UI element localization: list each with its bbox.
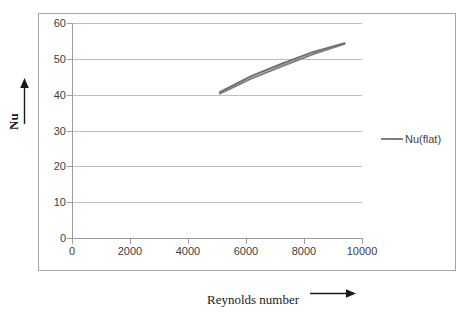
y-tick-label-40: 40 [38,90,66,101]
y-tick-label-30: 30 [38,126,66,137]
x-tick-mark-8000 [304,239,305,244]
chart-page: 60 50 40 30 20 10 0 0 2000 4000 6000 800… [0,0,476,319]
x-tick-label-2000: 2000 [100,245,160,257]
x-tick-mark-6000 [246,239,247,244]
x-tick-mark-10000 [362,239,363,244]
x-tick-mark-2000 [130,239,131,244]
legend: Nu(flat) [381,133,441,145]
x-tick-mark-0 [72,239,73,244]
x-tick-label-8000: 8000 [274,245,334,257]
legend-swatch-nu-flat [381,138,403,140]
legend-label-nu-flat: Nu(flat) [405,133,441,145]
y-tick-label-20: 20 [38,161,66,172]
x-tick-mark-4000 [188,239,189,244]
y-tick-label-0: 0 [38,233,66,244]
y-tick-label-10: 10 [38,197,66,208]
x-axis-title: Reynolds number [207,292,299,308]
right-arrow-icon [310,288,356,299]
series-line-nu-flat [220,44,345,94]
y-tick-label-60: 60 [38,18,66,29]
x-tick-label-6000: 6000 [216,245,276,257]
x-tick-label-10000: 10000 [332,245,392,257]
series-layer [72,23,362,239]
y-tick-label-50: 50 [38,54,66,65]
x-tick-label-4000: 4000 [158,245,218,257]
y-axis-title: Nu [6,113,22,130]
x-tick-label-0: 0 [42,245,102,257]
